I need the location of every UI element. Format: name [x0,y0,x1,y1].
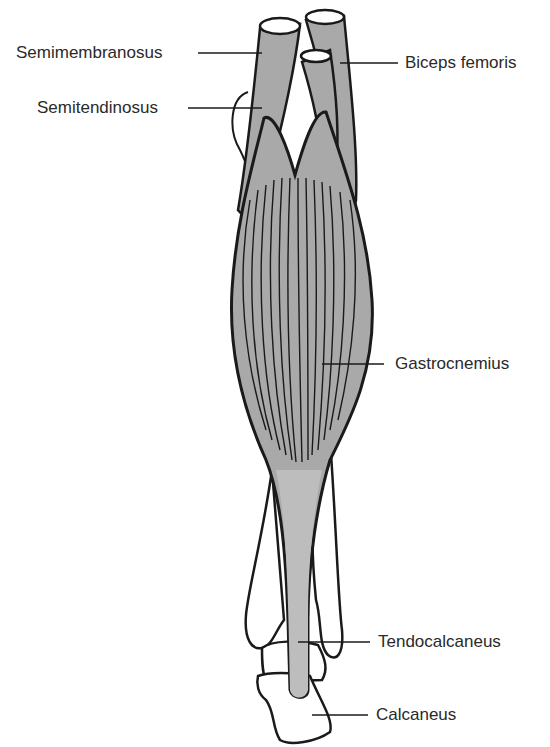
label-tendocalcaneus: Tendocalcaneus [378,633,501,650]
label-semimembranosus: Semimembranosus [16,44,162,61]
label-gastrocnemius: Gastrocnemius [395,355,509,372]
label-biceps-femoris: Biceps femoris [405,54,516,71]
label-calcaneus: Calcaneus [376,706,456,723]
label-semitendinosus: Semitendinosus [37,99,158,116]
